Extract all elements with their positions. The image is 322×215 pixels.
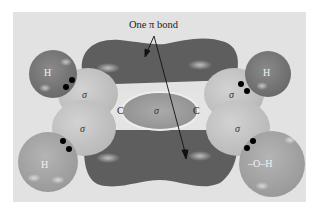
atom-label-c-left: C	[117, 106, 124, 116]
sigma-label-center: σ	[154, 106, 159, 116]
atom-label-h-top-left: H	[44, 68, 51, 78]
atom-label-h-bottom-left: H	[41, 160, 48, 170]
sigma-label-bottom-left: σ	[80, 124, 85, 134]
group-label-oh: –O–H	[248, 159, 272, 169]
pi-bond-label: One π bond	[129, 20, 178, 30]
sigma-lobe-cc	[122, 92, 198, 130]
sigma-label-top-left: σ	[82, 90, 87, 100]
atom-h-top-left	[29, 50, 77, 98]
sigma-label-top-right: σ	[229, 90, 234, 100]
orbital-diagram	[0, 0, 322, 215]
atom-label-h-top-right: H	[263, 68, 270, 78]
sigma-label-bottom-right: σ	[235, 124, 240, 134]
atom-label-c-right: C	[193, 106, 200, 116]
